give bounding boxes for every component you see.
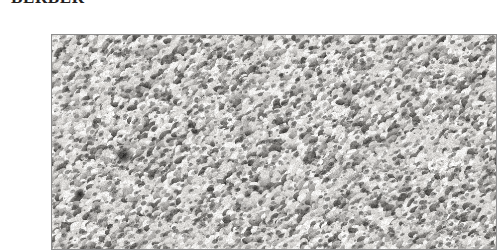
- page-title: BERBER: [11, 0, 85, 6]
- berber-texture-image: [52, 35, 496, 249]
- caption-area: BERBER: [0, 0, 468, 16]
- berber-texture-plate: [51, 34, 497, 250]
